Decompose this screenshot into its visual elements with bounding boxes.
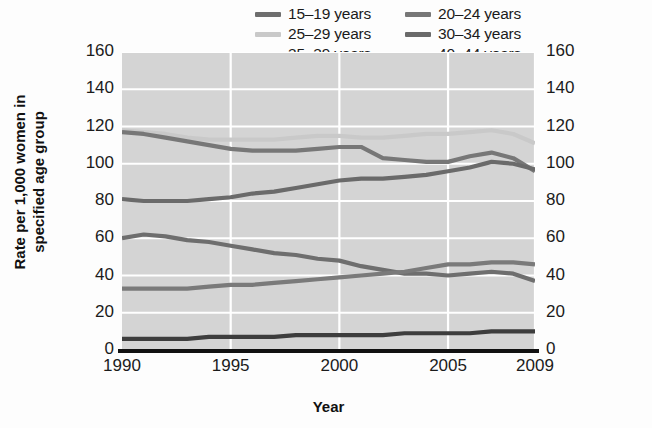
legend-swatch-25-29 bbox=[255, 32, 281, 37]
x-axis-tick-2000: 2000 bbox=[304, 356, 374, 376]
legend-label-30-34: 30–34 years bbox=[438, 25, 521, 43]
legend-item-20-24: 20–24 years bbox=[405, 5, 575, 23]
y-axis-tick-right-100: 100 bbox=[546, 153, 592, 173]
y-axis-tick-left-40: 40 bbox=[68, 265, 114, 285]
y-axis-tick-right-140: 140 bbox=[546, 78, 592, 98]
y-axis-tick-right-160: 160 bbox=[546, 41, 592, 61]
y-axis-title-line2: specified age group bbox=[29, 57, 48, 307]
y-axis-tick-left-60: 60 bbox=[68, 227, 114, 247]
x-axis-tick-2005: 2005 bbox=[413, 356, 483, 376]
y-axis-title-line1: Rate per 1,000 women in bbox=[10, 57, 29, 307]
y-axis-tick-left-80: 80 bbox=[68, 190, 114, 210]
chart-canvas bbox=[122, 52, 535, 350]
x-axis-tick-1990: 1990 bbox=[87, 356, 157, 376]
y-axis-tick-left-140: 140 bbox=[68, 78, 114, 98]
legend-swatch-30-34 bbox=[405, 32, 431, 37]
series-line-30-34 bbox=[122, 162, 535, 201]
y-axis-tick-right-20: 20 bbox=[546, 302, 592, 322]
x-axis-title: Year bbox=[122, 398, 535, 415]
legend-item-15-19: 15–19 years bbox=[255, 5, 405, 23]
y-axis-tick-right-120: 120 bbox=[546, 116, 592, 136]
x-axis-line bbox=[118, 349, 539, 353]
legend-item-25-29: 25–29 years bbox=[255, 25, 405, 43]
legend-label-15-19: 15–19 years bbox=[288, 5, 371, 23]
y-axis-tick-left-100: 100 bbox=[68, 153, 114, 173]
y-axis-tick-left-120: 120 bbox=[68, 116, 114, 136]
legend-swatch-20-24 bbox=[405, 12, 431, 17]
y-axis-tick-right-60: 60 bbox=[546, 227, 592, 247]
y-axis-tick-right-40: 40 bbox=[546, 265, 592, 285]
plot-area bbox=[122, 52, 535, 350]
legend-swatch-15-19 bbox=[255, 12, 281, 17]
x-axis-tick-2009: 2009 bbox=[500, 356, 570, 376]
legend-label-25-29: 25–29 years bbox=[288, 25, 371, 43]
y-axis-title: Rate per 1,000 women in specified age gr… bbox=[10, 57, 48, 307]
legend-label-20-24: 20–24 years bbox=[438, 5, 521, 23]
series-line-15-19 bbox=[122, 235, 535, 282]
y-axis-tick-right-80: 80 bbox=[546, 190, 592, 210]
x-axis-tick-1995: 1995 bbox=[196, 356, 266, 376]
chart-figure: 15–19 years 20–24 years 25–29 years 30–3… bbox=[0, 0, 652, 428]
y-axis-tick-left-20: 20 bbox=[68, 302, 114, 322]
series-line-40-44 bbox=[122, 331, 535, 338]
y-axis-tick-left-160: 160 bbox=[68, 41, 114, 61]
